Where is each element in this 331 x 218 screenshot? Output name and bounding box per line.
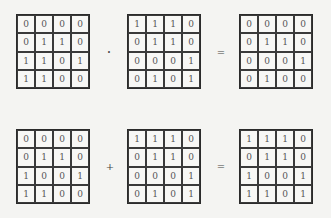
matrix-cell: 1: [35, 70, 53, 88]
matrix-cell: 1: [258, 70, 276, 88]
matrix-cell: 1: [146, 70, 164, 88]
matrix-cell: 0: [240, 148, 258, 166]
matrix-cell: 0: [240, 70, 258, 88]
matrix-cell: 0: [71, 33, 89, 51]
matrix-cell: 1: [35, 185, 53, 203]
matrix-cell: 0: [294, 70, 312, 88]
matrix-cell: 1: [276, 33, 294, 51]
matrix-cell: 0: [240, 33, 258, 51]
matrix-cell: 1: [182, 52, 200, 70]
matrix-cell: 1: [164, 148, 182, 166]
matrix-cell: 1: [35, 33, 53, 51]
matrix-cell: 0: [258, 52, 276, 70]
matrix-cell: 0: [53, 15, 71, 33]
matrix-cell: 1: [164, 15, 182, 33]
matrix-cell: 0: [182, 15, 200, 33]
matrix-cell: 0: [164, 167, 182, 185]
matrix-cell: 0: [294, 33, 312, 51]
matrix-cell: 0: [53, 70, 71, 88]
matrix-cell: 0: [71, 185, 89, 203]
matrix-cell: 0: [17, 33, 35, 51]
matrix-cell: 1: [17, 70, 35, 88]
matrix-cell: 1: [146, 130, 164, 148]
matrix-cell: 0: [240, 15, 258, 33]
matrix-cell: 0: [128, 167, 146, 185]
matrix-1-left: 0000011011011100: [16, 14, 90, 89]
matrix-cell: 0: [276, 52, 294, 70]
matrix-cell: 1: [240, 130, 258, 148]
matrix-cell: 0: [128, 70, 146, 88]
matrix-cell: 0: [53, 167, 71, 185]
matrix-cell: 0: [182, 148, 200, 166]
matrix-cell: 1: [17, 52, 35, 70]
matrix-cell: 1: [182, 185, 200, 203]
operator-plus: +: [105, 162, 115, 172]
matrix-cell: 1: [146, 33, 164, 51]
matrix-cell: 0: [276, 185, 294, 203]
matrix-cell: 1: [182, 167, 200, 185]
matrix-cell: 1: [71, 167, 89, 185]
matrix-cell: 0: [164, 185, 182, 203]
matrix-cell: 0: [71, 130, 89, 148]
matrix-cell: 0: [128, 52, 146, 70]
matrix-2-left: 0000011010011100: [16, 129, 90, 204]
matrix-cell: 0: [182, 33, 200, 51]
matrix-cell: 1: [240, 185, 258, 203]
matrix-cell: 0: [71, 70, 89, 88]
matrix-cell: 0: [35, 167, 53, 185]
matrix-cell: 1: [146, 15, 164, 33]
matrix-cell: 0: [53, 130, 71, 148]
matrix-cell: 1: [53, 33, 71, 51]
matrix-cell: 0: [128, 33, 146, 51]
matrix-cell: 0: [276, 70, 294, 88]
matrix-cell: 1: [35, 52, 53, 70]
matrix-cell: 1: [258, 130, 276, 148]
matrix-1-result: 0000011000010100: [239, 14, 313, 89]
matrix-cell: 1: [146, 185, 164, 203]
matrix-cell: 0: [294, 148, 312, 166]
matrix-cell: 0: [146, 167, 164, 185]
matrix-cell: 0: [240, 52, 258, 70]
matrix-cell: 0: [182, 130, 200, 148]
matrix-cell: 0: [71, 15, 89, 33]
matrix-cell: 0: [71, 148, 89, 166]
equals-sign: =: [216, 162, 226, 172]
matrix-2-result: 1110011010011101: [239, 129, 313, 204]
matrix-cell: 0: [276, 167, 294, 185]
matrix-cell: 1: [164, 130, 182, 148]
matrix-cell: 0: [164, 70, 182, 88]
matrix-cell: 1: [53, 148, 71, 166]
matrix-cell: 1: [240, 167, 258, 185]
matrix-cell: 0: [276, 15, 294, 33]
matrix-cell: 0: [17, 15, 35, 33]
matrix-cell: 1: [258, 33, 276, 51]
matrix-cell: 0: [35, 15, 53, 33]
matrix-cell: 0: [35, 130, 53, 148]
matrix-cell: 0: [17, 148, 35, 166]
matrix-cell: 0: [128, 185, 146, 203]
equals-sign: =: [216, 48, 226, 58]
matrix-cell: 0: [53, 185, 71, 203]
matrix-1-right: 1110011000010101: [127, 14, 201, 89]
matrix-2-right: 1110011000010101: [127, 129, 201, 204]
matrix-cell: 0: [146, 52, 164, 70]
matrix-cell: 1: [294, 52, 312, 70]
matrix-cell: 0: [294, 15, 312, 33]
matrix-cell: 1: [146, 148, 164, 166]
matrix-cell: 1: [276, 130, 294, 148]
matrix-cell: 1: [71, 52, 89, 70]
matrix-cell: 1: [258, 185, 276, 203]
matrix-cell: 1: [294, 185, 312, 203]
matrix-cell: 1: [258, 148, 276, 166]
matrix-cell: 1: [35, 148, 53, 166]
matrix-cell: 1: [182, 70, 200, 88]
matrix-cell: 0: [258, 15, 276, 33]
matrix-cell: 0: [294, 130, 312, 148]
matrix-cell: 1: [294, 167, 312, 185]
matrix-cell: 0: [258, 167, 276, 185]
matrix-cell: 0: [164, 52, 182, 70]
matrix-cell: 1: [128, 15, 146, 33]
matrix-cell: 1: [128, 130, 146, 148]
matrix-cell: 0: [128, 148, 146, 166]
matrix-cell: 1: [17, 185, 35, 203]
